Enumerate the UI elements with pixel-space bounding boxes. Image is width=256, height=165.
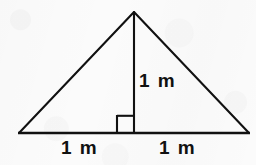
triangle-drawing xyxy=(0,0,256,165)
base-right-dimension-label: 1 m xyxy=(159,138,196,157)
right-angle-marker-icon xyxy=(117,115,133,133)
height-dimension-label: 1 m xyxy=(139,71,176,90)
base-left-dimension-label: 1 m xyxy=(61,138,98,157)
triangle-left-side xyxy=(19,12,134,133)
triangle-figure: 1 m 1 m 1 m xyxy=(0,0,256,165)
